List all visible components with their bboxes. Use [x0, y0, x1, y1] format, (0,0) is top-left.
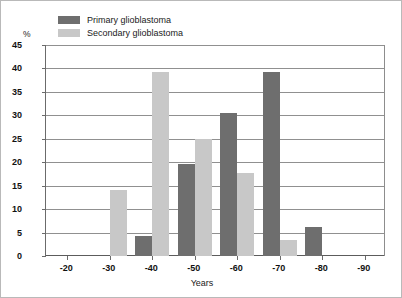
bar-secondary--70 — [280, 240, 297, 256]
bar-secondary--60 — [237, 173, 254, 257]
y-axis-tick-mark-25 — [42, 139, 46, 140]
y-axis-tick-mark-0 — [42, 256, 46, 257]
gridline-45 — [46, 45, 384, 46]
bar-primary--60 — [220, 113, 237, 256]
y-axis-tick-label-20: 20 — [0, 157, 22, 167]
y-axis-tick-mark-40 — [42, 68, 46, 69]
x-axis-title: Years — [1, 278, 402, 288]
y-axis-tick-mark-10 — [42, 209, 46, 210]
chart-figure: Primary glioblastoma Secondary glioblast… — [0, 0, 402, 298]
legend-swatch-primary — [58, 16, 80, 24]
bar-secondary--50 — [195, 139, 212, 256]
x-axis-tick-mark--50 — [195, 256, 196, 260]
plot-area: 051015202530354045 — [45, 45, 385, 256]
x-axis-tick-label--30: -30 — [89, 263, 129, 273]
bar-secondary--40 — [152, 72, 169, 256]
gridline-0 — [46, 255, 384, 256]
gridline-10 — [46, 209, 384, 210]
gridline-20 — [46, 162, 384, 163]
x-axis-tick-mark--70 — [280, 256, 281, 260]
gridline-40 — [46, 68, 384, 69]
x-axis-tick-mark--40 — [152, 256, 153, 260]
x-axis-tick-mark--90 — [365, 256, 366, 260]
y-axis-tick-mark-30 — [42, 115, 46, 116]
gridline-15 — [46, 186, 384, 187]
y-axis-tick-label-15: 15 — [0, 181, 22, 191]
y-axis-tick-mark-20 — [42, 162, 46, 163]
x-axis-tick-label--60: -60 — [216, 263, 256, 273]
x-axis-tick-label--40: -40 — [131, 263, 171, 273]
gridline-35 — [46, 92, 384, 93]
gridline-30 — [46, 115, 384, 116]
bar-primary--70 — [263, 72, 280, 256]
y-axis-tick-label-5: 5 — [0, 228, 22, 238]
y-axis-tick-mark-45 — [42, 45, 46, 46]
y-axis-tick-mark-5 — [42, 233, 46, 234]
legend-item-primary: Primary glioblastoma — [58, 14, 183, 25]
y-axis-tick-label-25: 25 — [0, 134, 22, 144]
y-axis-tick-label-35: 35 — [0, 87, 22, 97]
gridline-5 — [46, 233, 384, 234]
bar-primary--50 — [178, 164, 195, 256]
x-axis-tick-mark--20 — [67, 256, 68, 260]
y-axis-tick-mark-35 — [42, 92, 46, 93]
bar-primary--80 — [305, 227, 322, 257]
y-axis-tick-label-0: 0 — [0, 251, 22, 261]
y-axis-tick-label-30: 30 — [0, 110, 22, 120]
y-axis-unit-label: % — [23, 29, 31, 39]
x-axis-tick-label--90: -90 — [344, 263, 384, 273]
legend-swatch-secondary — [58, 29, 80, 37]
y-axis-tick-label-40: 40 — [0, 63, 22, 73]
x-axis-tick-label--70: -70 — [259, 263, 299, 273]
y-axis-tick-label-10: 10 — [0, 204, 22, 214]
legend-label-primary: Primary glioblastoma — [87, 15, 171, 25]
y-axis-tick-label-45: 45 — [0, 40, 22, 50]
x-axis-tick-mark--30 — [110, 256, 111, 260]
bar-primary--40 — [135, 236, 152, 256]
y-axis-tick-mark-15 — [42, 186, 46, 187]
x-axis-tick-label--50: -50 — [174, 263, 214, 273]
gridline-25 — [46, 139, 384, 140]
bar-secondary--30 — [110, 190, 127, 256]
legend-label-secondary: Secondary glioblastoma — [87, 28, 183, 38]
x-axis-tick-mark--80 — [322, 256, 323, 260]
x-axis-tick-label--20: -20 — [46, 263, 86, 273]
chart-legend: Primary glioblastoma Secondary glioblast… — [58, 14, 183, 38]
x-axis-tick-mark--60 — [237, 256, 238, 260]
x-axis-tick-label--80: -80 — [301, 263, 341, 273]
legend-item-secondary: Secondary glioblastoma — [58, 27, 183, 38]
